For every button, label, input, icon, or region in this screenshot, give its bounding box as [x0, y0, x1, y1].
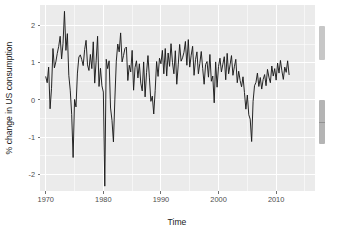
y-axis-title: % change in US consumption: [4, 41, 14, 154]
y-tick-label: 1: [31, 58, 35, 67]
scroll-thumb-notch: [319, 122, 325, 123]
y-tick-label: -2: [28, 170, 35, 179]
x-axis-ticks: [46, 191, 276, 194]
x-tick-label: 1980: [95, 195, 111, 204]
scroll-thumb-upper[interactable]: [319, 26, 325, 60]
y-axis-tick-labels: -2-1012: [28, 21, 35, 179]
chart-figure: 19701980199020002010 -2-1012 Time % chan…: [0, 0, 344, 234]
x-tick-label: 1990: [153, 195, 169, 204]
plot-panel: [40, 5, 315, 191]
scroll-thumb-lower[interactable]: [319, 100, 325, 144]
x-tick-label: 2010: [268, 195, 284, 204]
x-tick-label: 2000: [210, 195, 226, 204]
y-axis-ticks: [38, 25, 41, 174]
x-axis-title: Time: [168, 217, 187, 227]
y-tick-label: 0: [31, 96, 35, 105]
line-chart: 19701980199020002010 -2-1012 Time % chan…: [0, 0, 344, 234]
x-tick-label: 1970: [38, 195, 54, 204]
y-tick-label: 2: [31, 21, 35, 30]
y-tick-label: -1: [28, 133, 35, 142]
x-axis-tick-labels: 19701980199020002010: [38, 195, 285, 204]
